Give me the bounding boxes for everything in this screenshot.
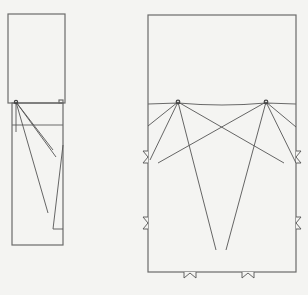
corner-marker bbox=[59, 100, 63, 103]
light-ray-line bbox=[266, 102, 296, 163]
lower-room-outline bbox=[12, 103, 63, 245]
door-opening-icon bbox=[184, 272, 196, 278]
reflection-line bbox=[53, 145, 63, 229]
ceiling-line bbox=[148, 103, 296, 105]
light-ray-line bbox=[158, 102, 266, 163]
window-opening-icon bbox=[143, 151, 148, 163]
room-lighting-diagram bbox=[0, 0, 308, 295]
window-opening-icon bbox=[143, 217, 148, 229]
window-opening-icon bbox=[296, 217, 301, 229]
light-ray-line bbox=[150, 102, 178, 160]
light-ray-line bbox=[266, 102, 296, 127]
light-ray-line bbox=[16, 102, 48, 213]
light-ray-line bbox=[178, 102, 284, 163]
upper-room-outline bbox=[8, 14, 65, 103]
door-opening-icon bbox=[242, 272, 254, 278]
light-ray-line bbox=[16, 102, 53, 150]
right-room-plan bbox=[143, 15, 301, 278]
light-ray-line bbox=[148, 102, 178, 126]
window-opening-icon bbox=[296, 151, 301, 163]
left-room-plan bbox=[8, 14, 65, 245]
light-ray-line bbox=[226, 102, 266, 250]
light-ray-line bbox=[178, 102, 216, 250]
room-outline bbox=[148, 15, 296, 272]
diagram-canvas bbox=[0, 0, 308, 295]
